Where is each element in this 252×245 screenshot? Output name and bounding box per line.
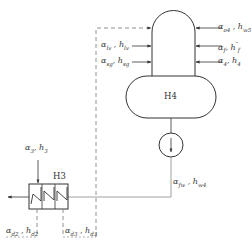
h3-label: H3 [53,171,66,181]
label-lv: αlv , hlv [101,40,129,53]
deaerator-column [152,11,195,76]
h4-label: H4 [164,91,177,101]
label-d2: αd2 , hd2 [6,226,38,239]
label-sg: αsg, hsg [101,56,129,69]
label-fw: αfw , hw4 [173,177,206,190]
feedwater-line [68,157,171,197]
deaerator-heater-diagram [0,0,252,245]
label-d3: αd3 , hd3 [65,226,97,239]
label-f: αf, h″f [218,40,240,55]
label-3: α3, h3 [25,143,48,156]
h3-heater [29,184,68,209]
label-o4: αo4 , hw5 [218,22,251,35]
label-4: α4, h4 [218,56,241,69]
